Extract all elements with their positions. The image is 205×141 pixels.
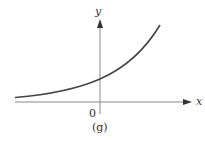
y-axis-arrow-icon (97, 19, 103, 28)
y-axis-label: y (94, 5, 102, 18)
graph: y x 0 (g) (0, 0, 205, 141)
exponential-curve (15, 25, 160, 98)
figure-caption: (g) (92, 121, 108, 134)
origin-label: 0 (89, 107, 96, 120)
x-axis-arrow-icon (183, 99, 192, 105)
x-axis-label: x (196, 95, 203, 108)
